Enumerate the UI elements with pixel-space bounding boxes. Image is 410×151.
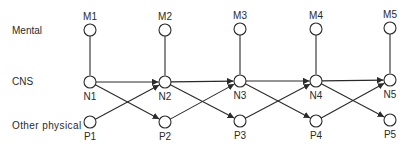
- node-label: N2: [159, 91, 172, 102]
- node-m5: M5: [383, 9, 397, 34]
- nodes: M1M2M3M4M5N1N2N3N4N5P1P2P3P4P5: [83, 9, 397, 142]
- node-n4: N4: [310, 75, 323, 101]
- node-m4: M4: [309, 10, 323, 35]
- node-label: M2: [158, 11, 172, 22]
- node-label: N3: [234, 90, 247, 101]
- node-p4: P4: [310, 115, 323, 141]
- node-m2: M2: [158, 11, 172, 36]
- node-circle-icon: [384, 22, 396, 34]
- row-label-physical: Other physical: [12, 120, 82, 131]
- node-label: N4: [310, 90, 323, 101]
- node-label: N5: [384, 89, 397, 100]
- node-label: P4: [310, 130, 323, 141]
- node-circle-icon: [384, 74, 396, 86]
- edge-n4-to-n5: [322, 80, 384, 81]
- node-label: P3: [234, 130, 247, 141]
- node-n2: N2: [159, 76, 172, 102]
- node-label: M5: [383, 9, 397, 20]
- node-m1: M1: [83, 11, 97, 36]
- node-circle-icon: [159, 24, 171, 36]
- node-circle-icon: [159, 116, 171, 128]
- node-circle-icon: [310, 75, 322, 87]
- node-p2: P2: [159, 116, 172, 142]
- node-circle-icon: [84, 24, 96, 36]
- row-label-mental: Mental: [12, 25, 42, 36]
- node-label: M3: [233, 10, 247, 21]
- node-circle-icon: [310, 115, 322, 127]
- edge-n2-to-n3: [171, 81, 234, 82]
- node-n5: N5: [384, 74, 397, 100]
- node-circle-icon: [84, 116, 96, 128]
- node-circle-icon: [234, 75, 246, 87]
- node-circle-icon: [234, 115, 246, 127]
- node-circle-icon: [310, 23, 322, 35]
- row-label-cns: CNS: [12, 76, 33, 87]
- node-p5: P5: [384, 114, 397, 140]
- node-circle-icon: [384, 114, 396, 126]
- node-circle-icon: [84, 76, 96, 88]
- row-labels: MentalCNSOther physical: [12, 25, 82, 131]
- node-label: P5: [384, 129, 397, 140]
- node-label: M1: [83, 11, 97, 22]
- node-n1: N1: [84, 76, 97, 102]
- node-label: M4: [309, 10, 323, 21]
- node-m3: M3: [233, 10, 247, 35]
- node-label: P2: [159, 131, 172, 142]
- node-label: N1: [84, 91, 97, 102]
- node-label: P1: [84, 131, 97, 142]
- node-circle-icon: [159, 76, 171, 88]
- node-circle-icon: [234, 23, 246, 35]
- node-p3: P3: [234, 115, 247, 141]
- node-n3: N3: [234, 75, 247, 101]
- node-p1: P1: [84, 116, 97, 142]
- causal-network-diagram: MentalCNSOther physical M1M2M3M4M5N1N2N3…: [0, 0, 410, 151]
